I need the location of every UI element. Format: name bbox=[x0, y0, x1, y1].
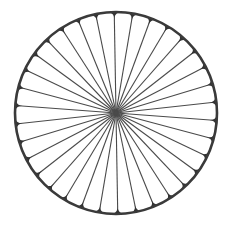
spoke bbox=[116, 113, 118, 214]
spoke bbox=[114, 12, 116, 113]
wheel-hub bbox=[114, 111, 118, 115]
spoke bbox=[49, 113, 116, 189]
spoke bbox=[116, 102, 216, 113]
spoke bbox=[16, 113, 116, 124]
spoke bbox=[116, 113, 185, 186]
spoke bbox=[47, 40, 116, 113]
spoke bbox=[116, 37, 183, 113]
spoked-wheel-diagram bbox=[0, 0, 228, 230]
